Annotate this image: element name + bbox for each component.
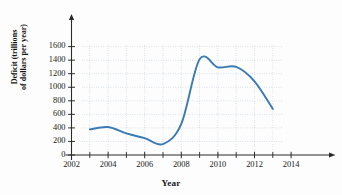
y-tick-label: 200 <box>32 136 66 145</box>
x-tick-label: 2012 <box>239 160 271 169</box>
x-tick-label: 2004 <box>92 160 124 169</box>
data-series-line <box>90 56 273 144</box>
deficit-line-chart: Deficit (trillions of dollars per year) … <box>0 0 342 195</box>
x-tick-label: 2014 <box>275 160 307 169</box>
y-tick-label: 1400 <box>32 55 66 64</box>
y-tick-label: 1600 <box>32 41 66 50</box>
vertical-gridlines <box>90 46 273 155</box>
y-tick-label: 800 <box>32 96 66 105</box>
y-tick-label: 1000 <box>32 82 66 91</box>
y-tick-label: 400 <box>32 123 66 132</box>
y-tick-label: 0 <box>32 150 66 159</box>
x-tick-label: 2010 <box>202 160 234 169</box>
x-tick-label: 2002 <box>56 160 88 169</box>
y-tick-label: 600 <box>32 109 66 118</box>
x-tick-label: 2008 <box>165 160 197 169</box>
y-tick-label: 1200 <box>32 69 66 78</box>
x-tick-label: 2006 <box>129 160 161 169</box>
x-axis-title: Year <box>0 178 342 188</box>
